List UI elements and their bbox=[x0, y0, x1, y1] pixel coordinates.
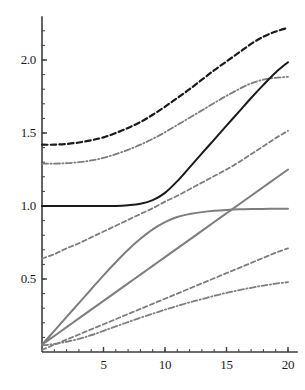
x-tick-label: 20 bbox=[273, 357, 303, 373]
x-tick-label: 10 bbox=[150, 357, 180, 373]
series-line-upper-gray-dashdot bbox=[42, 77, 288, 164]
x-tick-label: 5 bbox=[89, 357, 119, 373]
y-tick-label: 0.5 bbox=[4, 271, 36, 287]
series-line-gray-solid-saturating bbox=[42, 209, 288, 345]
x-tick-label: 15 bbox=[212, 357, 242, 373]
series-line-upper-black-dashed bbox=[42, 28, 288, 145]
chart-figure: 0.51.01.52.0 5101520 k bbox=[0, 0, 305, 390]
data-series-layer bbox=[42, 28, 288, 350]
series-line-gray-solid-linear bbox=[42, 170, 288, 345]
plot-area bbox=[0, 0, 305, 390]
y-tick-label: 2.0 bbox=[4, 52, 36, 68]
series-line-lower-gray-dashed bbox=[42, 248, 288, 349]
y-tick-label: 1.0 bbox=[4, 198, 36, 214]
series-line-lower-gray-dashdot bbox=[42, 282, 288, 345]
y-tick-label: 1.5 bbox=[4, 125, 36, 141]
